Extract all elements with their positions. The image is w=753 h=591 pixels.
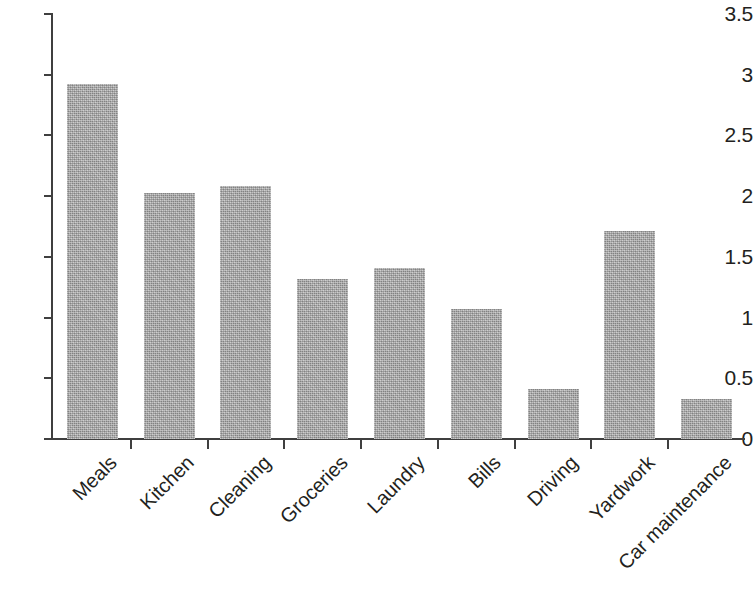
x-axis-tick <box>130 440 132 449</box>
bar <box>67 84 118 439</box>
x-axis-tick <box>437 440 439 449</box>
y-axis-tick-label: 0.5 <box>717 367 753 388</box>
y-axis-tick-label: 3 <box>717 64 753 85</box>
x-axis-tick <box>283 440 285 449</box>
x-axis-tick-label: Groceries <box>276 452 351 527</box>
y-axis-tick-label: 3.5 <box>717 3 753 24</box>
x-axis-tick-label: Laundry <box>363 452 428 517</box>
y-axis-line <box>51 13 53 440</box>
x-axis-tick-label: Kitchen <box>136 452 197 513</box>
bar-chart: 00.511.522.533.5 MealsKitchenCleaningGro… <box>0 0 753 591</box>
bar <box>144 193 195 439</box>
x-axis-tick-label: Bills <box>465 452 505 492</box>
bar <box>220 186 271 439</box>
y-axis-tick-label: 1.5 <box>717 246 753 267</box>
x-axis-tick-label: Driving <box>524 452 582 510</box>
x-axis-tick <box>590 440 592 449</box>
bar <box>297 279 348 439</box>
y-axis-tick-label: 2.5 <box>717 124 753 145</box>
x-axis-tick-label: Meals <box>69 452 121 504</box>
x-axis-tick-label: Cleaning <box>205 452 274 521</box>
x-axis-tick <box>667 440 669 449</box>
bar <box>451 309 502 439</box>
bar <box>681 399 732 439</box>
x-axis-tick <box>360 440 362 449</box>
y-axis-tick-label: 1 <box>717 307 753 328</box>
y-axis-tick-label: 2 <box>717 185 753 206</box>
bar <box>374 268 425 439</box>
x-axis-tick <box>514 440 516 449</box>
x-axis-tick <box>207 440 209 449</box>
bar <box>528 389 579 439</box>
x-axis-tick-label: Yardwork <box>586 452 658 524</box>
bar <box>604 231 655 439</box>
